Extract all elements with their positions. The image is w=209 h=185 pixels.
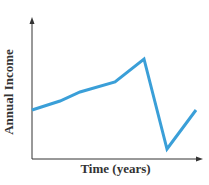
y-axis-label: Annual Income [1,47,17,137]
line-chart [0,0,209,185]
y-axis-arrow-icon [30,17,35,24]
x-axis-label: Time (years) [0,161,209,177]
income-line [32,59,196,149]
